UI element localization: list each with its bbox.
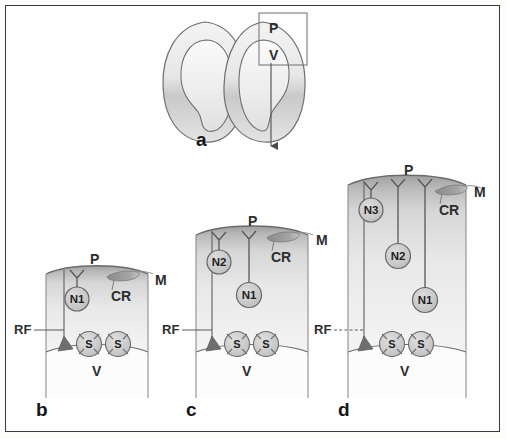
panel-d-n1-text: N1 [418,294,433,306]
panel-d-label-ventricle: V [400,364,409,378]
panel-d-n2-text: N2 [391,250,406,262]
panel-d-label-pial: P [404,163,413,177]
panel-d-stem-cell-2: S [409,332,434,357]
figure-root: P V a N1 [0,0,507,439]
panel-d-label-marginal: M [474,185,486,199]
panel-d-s1-text: S [388,338,395,350]
panel-d-label-cilium: CR [439,203,459,217]
panel-d-s2-text: S [417,338,424,350]
panel-d-letter: d [338,400,350,419]
panel-d-label-radial-fiber: RF [314,323,331,336]
panel-d-n3-text: N3 [364,204,379,216]
panel-d-graphic: N3 N2 N1 S S [0,0,507,439]
panel-d-stem-cell-1: S [380,332,405,357]
